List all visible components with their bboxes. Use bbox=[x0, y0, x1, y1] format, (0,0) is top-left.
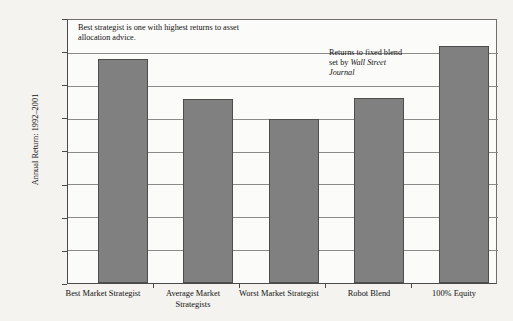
annotation-wsj-title-part-2: Journal bbox=[329, 68, 444, 78]
x-label-best-market-strategist: Best Market Strategist bbox=[55, 289, 151, 300]
bar-100-percent-equity bbox=[439, 46, 489, 284]
y-tick-mark-16 bbox=[62, 19, 67, 20]
x-label-line-1: 100% Equity bbox=[412, 289, 496, 300]
y-tick-mark-12 bbox=[62, 85, 67, 86]
y-axis-title: Annual Return: 1992–2001 bbox=[31, 60, 40, 220]
x-label-line-1: Average Market bbox=[145, 289, 241, 300]
annotation-wsj-title-part-1: Wall Street bbox=[350, 58, 386, 67]
x-label-line-1: Best Market Strategist bbox=[55, 289, 151, 300]
x-tick-mark-2 bbox=[239, 284, 240, 288]
annotation-wall-street-journal: Returns to fixed blend set by Wall Stree… bbox=[329, 48, 444, 79]
annotation-wsj-setby: set by bbox=[329, 58, 350, 67]
x-label-robot-blend: Robot Blend bbox=[327, 289, 411, 300]
chart-figure: Annual Return: 1992–2001 16.00% 14.00% 1… bbox=[0, 0, 513, 321]
bar-worst-market-strategist bbox=[269, 119, 319, 283]
x-label-100-percent-equity: 100% Equity bbox=[412, 289, 496, 300]
x-label-line-2: Strategists bbox=[145, 300, 241, 311]
y-tick-mark-0 bbox=[62, 284, 67, 285]
y-tick-mark-14 bbox=[62, 52, 67, 53]
x-tick-mark-3 bbox=[325, 284, 326, 288]
annotation-wsj-line-1: Returns to fixed blend bbox=[329, 48, 444, 58]
bar-best-market-strategist bbox=[98, 59, 148, 283]
x-label-line-1: Robot Blend bbox=[327, 289, 411, 300]
y-tick-mark-10 bbox=[62, 118, 67, 119]
x-label-line-1: Worst Market Strategist bbox=[229, 289, 329, 300]
y-tick-mark-2 bbox=[62, 251, 67, 252]
bar-robot-blend bbox=[354, 98, 404, 283]
x-label-average-market-strategists: Average Market Strategists bbox=[145, 289, 241, 310]
y-tick-mark-4 bbox=[62, 218, 67, 219]
x-tick-mark-1 bbox=[153, 284, 154, 288]
bar-average-market-strategists bbox=[183, 99, 233, 283]
x-label-worst-market-strategist: Worst Market Strategist bbox=[229, 289, 329, 300]
y-tick-mark-6 bbox=[62, 185, 67, 186]
y-tick-mark-8 bbox=[62, 151, 67, 152]
x-tick-mark-4 bbox=[411, 284, 412, 288]
annotation-best-strategist: Best strategist is one with highest retu… bbox=[78, 23, 258, 43]
annotation-wsj-line-2: set by Wall Street bbox=[329, 58, 444, 68]
